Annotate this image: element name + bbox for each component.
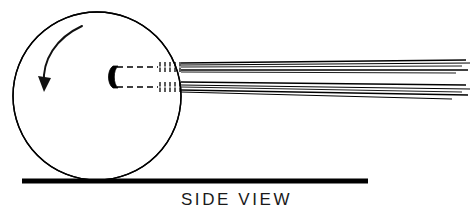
technical-diagram-canvas bbox=[0, 0, 473, 218]
stream-bundle-lower bbox=[181, 82, 470, 99]
view-caption: SIDE VIEW bbox=[0, 190, 473, 210]
stream-bundles bbox=[181, 60, 470, 99]
stream-line bbox=[181, 63, 470, 65]
stream-line bbox=[181, 85, 470, 89]
stream-line bbox=[181, 82, 466, 85]
stream-line bbox=[181, 90, 468, 95]
stream-bundle-upper bbox=[181, 60, 470, 73]
stream-line bbox=[181, 60, 466, 63]
rotating-disc-overlay-arc bbox=[13, 12, 181, 180]
stipple-bands bbox=[160, 62, 180, 92]
nozzle-tip bbox=[109, 66, 119, 88]
rotation-arrow-head-icon bbox=[38, 76, 51, 92]
stream-line bbox=[181, 72, 456, 73]
figure-root: SIDE VIEW bbox=[0, 0, 473, 218]
rotation-arrow bbox=[38, 26, 82, 92]
stream-line bbox=[181, 66, 462, 67]
stipple-band-lower bbox=[160, 82, 180, 92]
rotating-disc bbox=[13, 12, 181, 180]
nozzle-body-dashed-outline bbox=[117, 67, 158, 87]
rotation-arrow-curve bbox=[44, 26, 82, 84]
